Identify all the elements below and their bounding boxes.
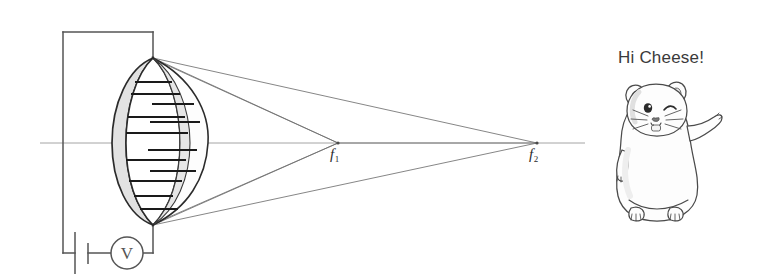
figure-canvas: V — [0, 0, 758, 279]
focal-point-2-marker — [535, 141, 538, 144]
mouse-eye-highlight — [648, 105, 651, 108]
focal-point-1-marker — [336, 141, 339, 144]
battery-symbol — [75, 232, 88, 274]
tunable-liquid-lens — [112, 57, 208, 227]
ray-bundle — [153, 58, 537, 225]
voltmeter-letter: V — [121, 244, 134, 263]
ray-top-to-f2 — [153, 58, 537, 143]
cartoon-mouse — [617, 80, 722, 221]
mouse-eye-open — [644, 103, 652, 113]
optics-diagram-svg: V — [0, 0, 758, 279]
focal-point-1-label: f1 — [330, 146, 339, 163]
mouse-tooth-block — [652, 125, 661, 131]
ray-bottom-to-f2 — [153, 143, 537, 225]
mouse-arm-raised — [687, 115, 722, 141]
focal-point-2-label: f2 — [529, 146, 538, 163]
voltmeter-symbol: V — [111, 237, 143, 269]
greeting-text: Hi Cheese! — [618, 48, 704, 68]
lens-bottom-vertex — [152, 224, 155, 227]
mouse-nose — [652, 118, 659, 122]
lens-top-vertex — [152, 57, 155, 60]
